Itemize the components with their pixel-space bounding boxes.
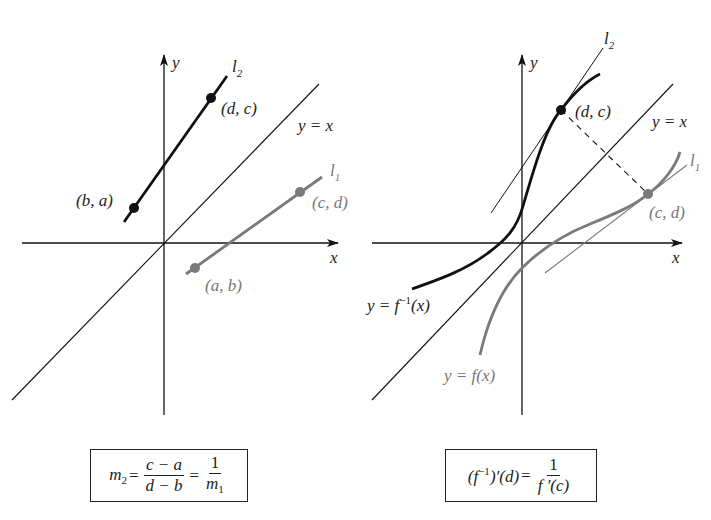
- formula-fraction-derivative: 1 f ′(c): [536, 456, 572, 495]
- right-y-axis-label: y: [528, 53, 538, 72]
- reciprocal-numerator: 1: [209, 454, 222, 474]
- right-x-axis-label: x: [671, 248, 680, 267]
- formula-fraction-slope: c − a d − b: [144, 456, 185, 495]
- function-curve: [480, 152, 680, 355]
- point-b-a: [129, 203, 139, 213]
- left-identity-line: [12, 84, 319, 400]
- derivative-numerator: 1: [547, 456, 560, 476]
- left-panel: y x y = x l2 l1 (b, a) (d, c) (a, b) (c,…: [12, 53, 348, 415]
- point-a-b: [190, 263, 200, 273]
- reciprocal-denominator: m1: [204, 474, 226, 498]
- fraction-denominator: d − b: [144, 476, 185, 495]
- label-d-c: (d, c): [221, 99, 257, 118]
- formula-inverse-derivative: (f−1)′(d): [468, 465, 519, 487]
- reflection-dashed-line: [561, 110, 648, 194]
- right-label-d-c: (d, c): [575, 102, 611, 121]
- right-point-c-d: [643, 189, 653, 199]
- function-curve-label: y = f(x): [442, 366, 495, 385]
- diagram-canvas: y x y = x l2 l1 (b, a) (d, c) (a, b) (c,…: [0, 0, 711, 520]
- formula-equals-1: =: [129, 466, 139, 486]
- fraction-numerator: c − a: [144, 456, 184, 476]
- right-l2-label: l2: [604, 29, 615, 51]
- right-panel: y x y = x l2 l1 (d, c) (c, d) y = f−1(x)…: [365, 29, 700, 415]
- formula-equals: =: [521, 466, 531, 486]
- inverse-curve-label: y = f−1(x): [365, 294, 430, 315]
- formula-equals-2: =: [189, 466, 199, 486]
- derivative-denominator: f ′(c): [536, 476, 572, 495]
- left-l1-label: l1: [330, 161, 340, 183]
- right-point-d-c: [556, 105, 566, 115]
- point-d-c: [206, 93, 216, 103]
- diagram-stage: y x y = x l2 l1 (b, a) (d, c) (a, b) (c,…: [0, 0, 711, 520]
- formula-m2: m2: [109, 465, 127, 486]
- point-c-d: [295, 187, 305, 197]
- formula-fraction-reciprocal: 1 m1: [204, 454, 226, 498]
- right-label-c-d: (c, d): [649, 203, 685, 222]
- right-formula-box: (f−1)′(d) = 1 f ′(c): [445, 449, 597, 502]
- label-b-a: (b, a): [76, 191, 113, 210]
- left-formula-box: m2 = c − a d − b = 1 m1: [90, 449, 248, 502]
- right-identity-label: y = x: [650, 112, 688, 131]
- label-c-d: (c, d): [312, 193, 348, 212]
- right-l1-label: l1: [690, 151, 700, 173]
- inverse-function-curve: [412, 74, 600, 289]
- left-x-axis-label: x: [329, 248, 338, 267]
- left-identity-label: y = x: [296, 116, 334, 135]
- left-l2-label: l2: [232, 57, 243, 79]
- left-y-axis-label: y: [170, 53, 180, 72]
- label-a-b: (a, b): [205, 276, 242, 295]
